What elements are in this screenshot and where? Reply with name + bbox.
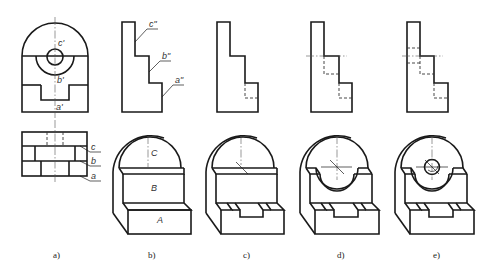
panel-b-isometric: C B A: [113, 136, 191, 234]
caption-c: c): [243, 250, 250, 260]
panel-d-side-view: [306, 22, 352, 112]
panel-b-side-view: c" b" a": [122, 19, 184, 112]
label-a: a: [91, 171, 96, 181]
panel-c-isometric: [206, 136, 284, 234]
label-b-prime: b': [57, 75, 64, 85]
caption-e: e): [433, 250, 440, 260]
caption-b: b): [148, 250, 156, 260]
label-c-double-prime: c": [149, 19, 158, 29]
panel-e-isometric: [395, 136, 474, 234]
label-A: A: [156, 215, 163, 225]
label-a-prime: a': [56, 102, 63, 112]
label-c-prime: c': [58, 38, 65, 48]
panel-c-side-view: [217, 22, 258, 112]
panel-d-isometric: [300, 136, 379, 234]
caption-d: d): [337, 250, 345, 260]
label-B: B: [151, 183, 157, 193]
label-c: c: [91, 142, 96, 152]
panel-a-top-view: c b a: [22, 120, 101, 182]
label-C: C: [151, 148, 158, 158]
panel-a-front-view: c' b' a': [22, 17, 88, 118]
label-b-double-prime: b": [162, 51, 171, 61]
panel-e-side-view: [402, 22, 448, 112]
caption-a: a): [53, 250, 60, 260]
technical-drawing-figure: c' b' a' c b a c" b" a": [0, 0, 490, 277]
label-b: b: [91, 156, 96, 166]
label-a-double-prime: a": [175, 75, 184, 85]
